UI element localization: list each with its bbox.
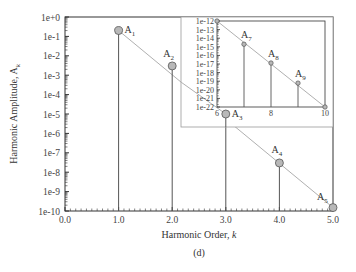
- y-axis-title: Harmonic Amplitude, Ak: [8, 63, 22, 163]
- y-tick-label: 1e-6: [43, 129, 60, 139]
- harmonic-amplitude-chart: 1e+01e-11e-21e-31e-41e-51e-61e-71e-81e-9…: [0, 0, 356, 272]
- inset-x-tick-label: 8: [269, 109, 273, 118]
- inset-data-point-marker: [215, 19, 219, 23]
- y-tick-label: 1e-5: [43, 110, 60, 120]
- y-tick-label: 1e-8: [43, 168, 60, 178]
- inset-data-point-marker: [323, 105, 327, 109]
- data-point-marker: [275, 159, 283, 167]
- inset-plot-area: 1e-121e-131e-141e-151e-161e-171e-181e-19…: [181, 17, 333, 127]
- y-tick-label: 1e+0: [41, 13, 60, 23]
- x-tick-label: 5.0: [327, 215, 339, 225]
- x-tick-label: 4.0: [273, 215, 285, 225]
- x-tick-label: 3.0: [220, 215, 232, 225]
- point-label: A2: [163, 48, 174, 62]
- x-tick-label: 2.0: [166, 215, 178, 225]
- y-tick-label: 1e-9: [43, 187, 60, 197]
- data-point-marker-a3-overlay: [222, 110, 230, 118]
- x-tick-label: 0.0: [59, 215, 71, 225]
- inset-data-point-marker: [242, 42, 246, 46]
- inset-data-point-marker: [269, 61, 273, 65]
- inset-data-point-marker: [296, 81, 300, 85]
- y-tick-label: 1e-2: [43, 51, 60, 61]
- point-label: A1: [125, 24, 136, 38]
- y-tick-label: 1e-1: [43, 32, 60, 42]
- inset-x-tick-label: 10: [321, 109, 329, 118]
- inset-y-tick-label: 1e-22: [196, 103, 214, 112]
- y-tick-label: 1e-10: [38, 207, 60, 217]
- data-point-marker: [168, 62, 176, 70]
- data-point-marker: [329, 204, 337, 212]
- inset-x-tick-label: 6: [215, 109, 219, 118]
- figure-caption: (d): [193, 247, 205, 259]
- x-tick-label: 1.0: [113, 215, 125, 225]
- x-axis-title: Harmonic Order, k: [162, 229, 237, 240]
- point-label: A4: [271, 144, 282, 158]
- y-tick-label: 1e-4: [43, 90, 60, 100]
- data-point-marker: [115, 27, 123, 35]
- point-label: A5: [317, 191, 328, 205]
- y-tick-label: 1e-3: [43, 71, 60, 81]
- y-tick-label: 1e-7: [43, 148, 60, 158]
